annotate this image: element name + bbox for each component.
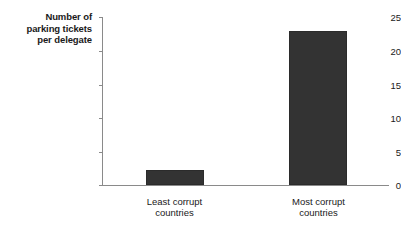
y-tick-mark-5 — [99, 152, 103, 153]
y-tick-mark-10 — [99, 118, 103, 119]
y-tick-mark-20 — [99, 51, 103, 52]
category-label-most-corrupt: Most corrupt countries — [276, 196, 361, 219]
y-tick-mark-0 — [99, 185, 103, 186]
category-label-least-corrupt: Least corrupt countries — [132, 196, 217, 219]
y-tick-mark-15 — [99, 85, 103, 86]
plot-area: 25 20 15 10 5 0 Least corrupt countries … — [0, 0, 401, 232]
y-tick-label-25: 25 — [307, 13, 401, 23]
y-axis-line — [102, 17, 103, 186]
y-tick-mark-25 — [99, 17, 103, 18]
bar-chart: Number of parking tickets per delegate 2… — [0, 0, 401, 232]
bar-least-corrupt — [146, 170, 204, 185]
bar-most-corrupt — [289, 31, 347, 185]
